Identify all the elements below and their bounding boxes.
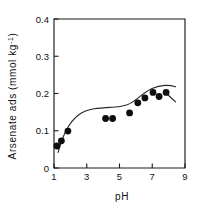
y-axis-title: Arsenate ads (mmol kg-1) [7, 33, 19, 160]
x-tick-label-1: 1 [51, 171, 56, 182]
data-point [134, 99, 141, 106]
data-point [156, 93, 163, 100]
chart-figure: 0 0.1 0.2 0.3 0.4 1 3 5 7 9 pH Arsenat [0, 0, 206, 213]
chart-background [0, 0, 206, 213]
y-axis-title-paren: ) [7, 33, 18, 37]
y-tick-label-0: 0 [44, 163, 49, 174]
arsenate-adsorption-ph-scatter-chart: 0 0.1 0.2 0.3 0.4 1 3 5 7 9 pH Arsenat [0, 0, 206, 213]
y-tick-label-0.4: 0.4 [36, 14, 49, 25]
data-point [142, 95, 149, 102]
x-tick-label-3: 3 [84, 171, 89, 182]
data-point [150, 89, 157, 96]
data-point [58, 137, 65, 144]
data-point [54, 143, 61, 150]
data-point [102, 115, 109, 122]
x-tick-label-9: 9 [182, 171, 187, 182]
data-point [65, 128, 72, 135]
y-tick-label-0.3: 0.3 [36, 51, 49, 62]
x-axis-title: pH [115, 191, 129, 202]
y-tick-label-0.2: 0.2 [36, 88, 49, 99]
data-point [126, 110, 133, 117]
y-axis-title-exponent: -1 [7, 37, 14, 44]
y-axis-title-main: Arsenate ads (mmol kg [7, 44, 18, 159]
x-tick-label-5: 5 [117, 171, 122, 182]
data-point [109, 115, 116, 122]
x-tick-label-7: 7 [150, 171, 155, 182]
y-tick-label-0.1: 0.1 [36, 125, 49, 136]
svg-text:Arsenate ads (mmol kg-1): Arsenate ads (mmol kg-1) [7, 33, 19, 160]
